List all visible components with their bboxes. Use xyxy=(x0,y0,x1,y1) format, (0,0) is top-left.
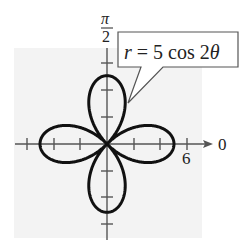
polar-graph: 0 6 π 2 r = 5 cos 2θ xyxy=(0,0,241,240)
callout-theta: θ xyxy=(210,41,220,63)
svg-text:π: π xyxy=(101,10,110,27)
tick-label-6: 6 xyxy=(182,149,191,168)
callout-eq: = 5 cos 2 xyxy=(132,41,210,63)
svg-text:2: 2 xyxy=(102,28,110,45)
callout-r: r xyxy=(124,41,132,63)
svg-text:r = 5 cos 2θ: r = 5 cos 2θ xyxy=(124,41,220,63)
vertical-axis-label: π 2 xyxy=(101,10,113,45)
polar-axis-label: 0 xyxy=(218,135,227,154)
